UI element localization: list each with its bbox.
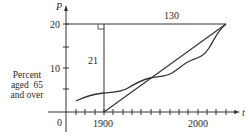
- x-tick-1900: 1900: [93, 118, 113, 129]
- vertical-length-label: 21: [88, 55, 98, 66]
- right-angle-marker-icon: [98, 24, 104, 29]
- data-curve: [76, 24, 226, 101]
- ylabel-line-2: aged 65: [4, 80, 50, 90]
- t-axis-label: t: [242, 107, 245, 118]
- y-tick-10: 10: [50, 63, 60, 74]
- chart: P t 20 10 0 1900 2000 130 21: [0, 0, 252, 138]
- y-axis-arrow-icon: [64, 5, 68, 11]
- x-tick-2000: 2000: [188, 118, 208, 129]
- p-axis-label: P: [55, 1, 62, 12]
- origin-label: 0: [57, 117, 62, 128]
- ylabel-line-3: and over: [4, 90, 50, 100]
- y-tick-20: 20: [50, 19, 60, 30]
- horizontal-length-label: 130: [164, 10, 179, 21]
- ylabel-line-1: Percent: [4, 70, 50, 80]
- secant-line: [104, 24, 226, 112]
- x-axis-arrow-icon: [234, 110, 240, 114]
- y-axis-description: Percent aged 65 and over: [4, 70, 50, 100]
